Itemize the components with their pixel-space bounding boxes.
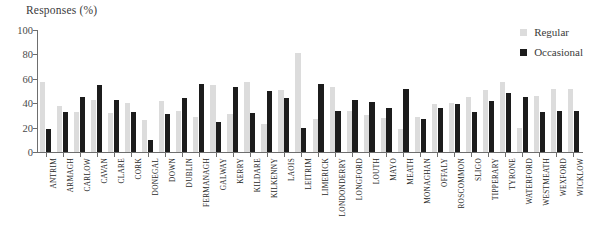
y-axis-tick-labels: 020406080100: [0, 0, 33, 241]
bar-occasional-kilkenny: [267, 91, 272, 152]
bar-group: [40, 30, 51, 152]
bar-group: [125, 30, 136, 152]
bar-regular-kilkenny: [261, 124, 266, 152]
x-axis-label-clare: CLARE: [117, 158, 126, 183]
bar-occasional-tipperary: [489, 101, 494, 152]
bar-regular-cork: [125, 103, 130, 152]
bar-regular-cavan: [91, 100, 96, 152]
bar-occasional-offaly: [438, 108, 443, 152]
legend-label-occasional: Occasional: [534, 46, 583, 58]
bar-regular-kildare: [244, 82, 249, 152]
bar-regular-armagh: [57, 106, 62, 152]
x-axis-label-longford: LONGFORD: [355, 158, 364, 200]
bar-occasional-laois: [284, 98, 289, 152]
x-axis-label-kerry: KERRY: [236, 158, 245, 184]
y-tick-label: 60: [23, 73, 34, 84]
x-axis-label-sligo: SLIGO: [474, 158, 483, 181]
bar-regular-galway: [210, 85, 215, 152]
bar-occasional-cork: [131, 112, 136, 152]
bar-group: [227, 30, 238, 152]
bar-occasional-armagh: [63, 112, 68, 152]
bar-occasional-dublin: [182, 98, 187, 152]
bar-occasional-galway: [216, 122, 221, 153]
bar-occasional-tyrone: [506, 93, 511, 152]
x-tick-mark: [403, 153, 404, 157]
bar-group: [108, 30, 119, 152]
bar-occasional-sligo: [472, 112, 477, 152]
bar-regular-tipperary: [483, 90, 488, 152]
bar-group: [193, 30, 204, 152]
bar-regular-clare: [108, 113, 113, 152]
bar-occasional-westmeath: [540, 112, 545, 152]
bar-group: [142, 30, 153, 152]
x-axis-label-cork: CORK: [134, 158, 143, 179]
bar-occasional-kildare: [250, 113, 255, 152]
bar-regular-fermanagh: [193, 117, 198, 152]
x-axis-label-tipperary: TIPPERARY: [491, 158, 500, 200]
bar-group: [398, 30, 409, 152]
x-tick-mark: [505, 153, 506, 157]
bar-group: [210, 30, 221, 152]
x-axis-label-laois: LAOIS: [287, 158, 296, 181]
x-tick-mark: [573, 153, 574, 157]
bar-occasional-roscommon: [455, 104, 460, 152]
bar-occasional-louth: [369, 102, 374, 152]
x-tick-mark: [352, 153, 353, 157]
bar-regular-carlow: [74, 112, 79, 152]
legend-label-regular: Regular: [534, 26, 569, 38]
bar-group: [347, 30, 358, 152]
bar-regular-westmeath: [534, 96, 539, 152]
bar-regular-louth: [364, 115, 369, 152]
legend-swatch-regular-icon: [520, 29, 527, 36]
x-axis-label-kilkenny: KILKENNY: [270, 158, 279, 198]
x-axis-label-louth: LOUTH: [372, 158, 381, 184]
x-axis-label-dublin: DUBLIN: [185, 158, 194, 187]
bar-occasional-kerry: [233, 87, 238, 152]
bar-group: [295, 30, 306, 152]
bar-group: [91, 30, 102, 152]
bar-group: [278, 30, 289, 152]
bar-occasional-longford: [352, 100, 357, 152]
x-axis-line: [37, 152, 583, 153]
bar-occasional-fermanagh: [199, 84, 204, 152]
x-axis-label-cavan: CAVAN: [100, 158, 109, 184]
legend-item-occasional: Occasional: [520, 46, 583, 58]
bar-regular-roscommon: [449, 103, 454, 152]
bar-group: [313, 30, 324, 152]
x-tick-mark: [369, 153, 370, 157]
bar-regular-tyrone: [500, 82, 505, 152]
bar-regular-offaly: [432, 104, 437, 152]
bar-group: [74, 30, 85, 152]
x-axis-label-limerick: LIMERICK: [321, 158, 330, 196]
bar-regular-monaghan: [415, 117, 420, 152]
bar-occasional-clare: [114, 100, 119, 152]
x-tick-mark: [556, 153, 557, 157]
x-tick-mark: [182, 153, 183, 157]
x-tick-mark: [216, 153, 217, 157]
bar-regular-dublin: [176, 111, 181, 152]
bar-group: [500, 30, 511, 152]
x-axis-label-wexford: WEXFORD: [559, 158, 568, 196]
x-axis-label-fermanagh: FERMANAGH: [202, 158, 211, 207]
bar-group: [449, 30, 460, 152]
bar-group: [381, 30, 392, 152]
bar-regular-longford: [347, 111, 352, 152]
x-tick-mark: [267, 153, 268, 157]
x-tick-mark: [97, 153, 98, 157]
x-axis-label-kildare: KILDARE: [253, 158, 262, 192]
bar-occasional-cavan: [97, 85, 102, 152]
bar-group: [330, 30, 341, 152]
bar-occasional-carlow: [80, 97, 85, 152]
x-tick-mark: [199, 153, 200, 157]
x-tick-mark: [488, 153, 489, 157]
x-tick-mark: [148, 153, 149, 157]
x-axis-label-wicklow: WICKLOW: [576, 158, 585, 196]
bar-group: [483, 30, 494, 152]
x-axis-label-westmeath: WESTMEATH: [542, 158, 551, 206]
x-axis-label-leitrim: LEITRIM: [304, 158, 313, 190]
x-axis-label-mayo: MAYO: [389, 158, 398, 181]
bar-occasional-limerick: [318, 84, 323, 152]
x-tick-mark: [437, 153, 438, 157]
bar-occasional-mayo: [386, 108, 391, 152]
bar-occasional-down: [165, 114, 170, 152]
